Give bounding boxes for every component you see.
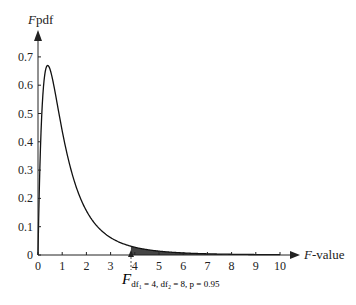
x-tick-label: 0 xyxy=(35,259,41,273)
x-tick-label: 8 xyxy=(229,259,235,273)
y-tick-label: 0.2 xyxy=(18,191,33,205)
y-tick-label: 0 xyxy=(27,248,33,262)
x-tick-label: 3 xyxy=(108,259,114,273)
x-tick-label: 6 xyxy=(180,259,186,273)
y-axis-title: Fpdf xyxy=(27,12,54,27)
x-tick-label: 2 xyxy=(83,259,89,273)
y-tick-label: 0.4 xyxy=(18,135,33,149)
x-tick-label: 1 xyxy=(59,259,65,273)
pdf-curve xyxy=(38,65,280,255)
x-tick-label: 9 xyxy=(253,259,259,273)
x-tick-label: 10 xyxy=(274,259,286,273)
f-distribution-chart: 012345678910 00.10.20.30.40.50.60.7 Fpdf… xyxy=(0,0,356,305)
y-tick-label: 0.7 xyxy=(18,50,33,64)
y-axis-arrow-icon xyxy=(34,30,42,41)
x-axis-title: F-value xyxy=(303,247,345,262)
y-tick-label: 0.6 xyxy=(18,78,33,92)
y-tick-label: 0.3 xyxy=(18,163,33,177)
x-tick-label: 7 xyxy=(204,259,210,273)
x-axis-arrow-icon xyxy=(290,251,300,259)
x-tick-label: 5 xyxy=(156,259,162,273)
y-tick-label: 0.5 xyxy=(18,107,33,121)
y-tick-label: 0.1 xyxy=(18,220,33,234)
x-tick-label: 4 xyxy=(132,259,138,273)
critical-value-label: Fdf₁ = 4, df₂ = 8, p = 0.95 xyxy=(121,271,220,289)
